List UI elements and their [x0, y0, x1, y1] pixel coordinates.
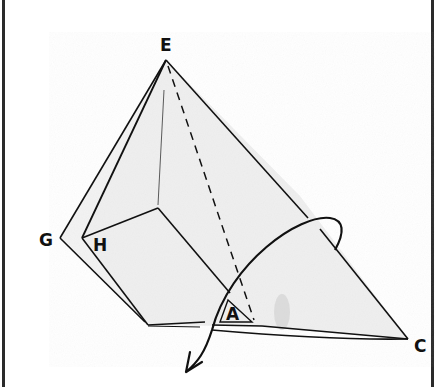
label-E: E — [160, 35, 172, 55]
paper-main-body — [82, 60, 408, 339]
paper-shade — [274, 294, 290, 330]
label-A: A — [226, 304, 240, 324]
label-C: C — [414, 336, 426, 356]
origami-diagram: E G H A C — [0, 0, 435, 387]
label-G: G — [39, 230, 53, 250]
diagram-frame: E G H A C — [0, 0, 435, 387]
label-H: H — [93, 235, 107, 255]
bottom-edge-2 — [148, 326, 200, 327]
